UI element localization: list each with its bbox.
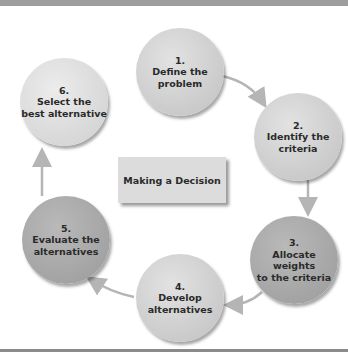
arrow-1-to-2	[222, 76, 264, 104]
step-2-number: 2.	[293, 120, 303, 132]
diagram-title-box: Making a Decision	[118, 157, 226, 203]
step-6-number: 6.	[59, 85, 69, 97]
diagram-title: Making a Decision	[123, 175, 220, 186]
step-6-label: Select the best alternative	[21, 96, 107, 119]
step-3-number: 3.	[289, 237, 299, 249]
step-6-circle: 6. Select the best alternative	[20, 58, 108, 146]
step-4-label: Develop alternatives	[148, 292, 213, 315]
step-3-label: Allocate weights to the criteria	[250, 249, 338, 284]
step-1-number: 1.	[175, 55, 185, 67]
step-5-label: Evaluate the alternatives	[32, 234, 100, 257]
step-4-number: 4.	[175, 281, 185, 293]
step-2-circle: 2. Identify the criteria	[254, 93, 342, 181]
step-5-circle: 5. Evaluate the alternatives	[22, 196, 110, 284]
step-4-circle: 4. Develop alternatives	[136, 254, 224, 342]
step-1-circle: 1. Define the problem	[136, 28, 224, 116]
step-2-label: Identify the criteria	[267, 131, 330, 154]
arrow-4-to-5	[90, 279, 134, 297]
step-1-label: Define the problem	[152, 66, 208, 89]
step-3-circle: 3. Allocate weights to the criteria	[250, 216, 338, 304]
arrow-3-to-4	[228, 292, 262, 305]
step-5-number: 5.	[61, 223, 71, 235]
